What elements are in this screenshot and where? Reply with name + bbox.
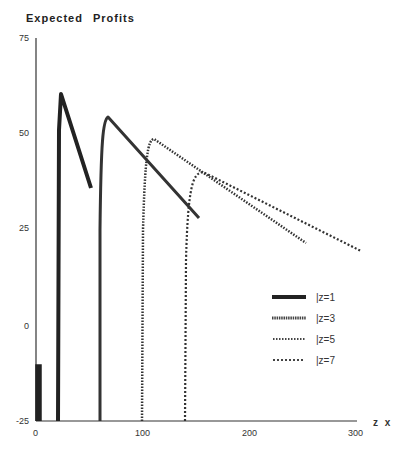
- x-tick: 0: [33, 428, 38, 438]
- x-tick: 200: [242, 428, 257, 438]
- y-tick: -25: [16, 416, 29, 426]
- legend: |z=1 |z=3 |z=5 |z=7: [272, 292, 335, 366]
- series-z1-spike: [37, 366, 40, 421]
- legend-label-z1: |z=1: [316, 292, 335, 303]
- legend-label-z3: |z=3: [316, 313, 335, 324]
- y-tick: 0: [24, 321, 29, 331]
- y-tick: 25: [19, 223, 29, 233]
- x-axis-label: z x: [373, 417, 392, 428]
- series-z3-line: [100, 117, 199, 421]
- legend-label-z5: |z=5: [316, 334, 335, 345]
- legend-label-z7: |z=7: [316, 355, 335, 366]
- series-z1-line: [58, 94, 91, 421]
- chart-plot: 75 50 25 0 -25 0 100 200 300 z x |z=1 |z…: [0, 0, 400, 455]
- y-tick: 50: [19, 128, 29, 138]
- x-tick: 100: [135, 428, 150, 438]
- y-tick: 75: [19, 33, 29, 43]
- x-tick: 300: [348, 428, 363, 438]
